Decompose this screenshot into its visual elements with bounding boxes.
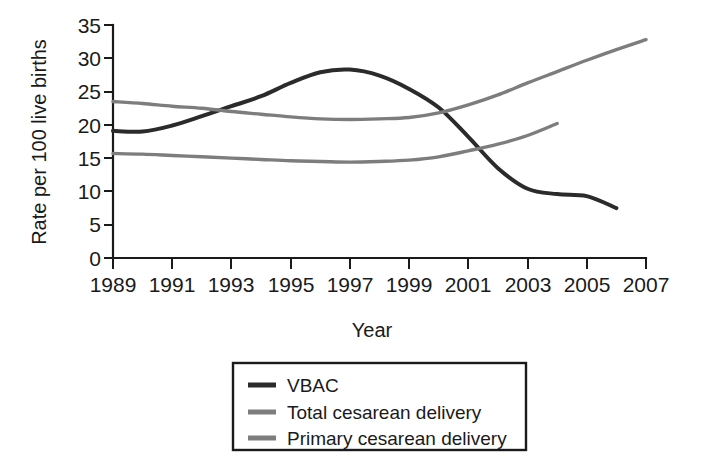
series-line-primary-cesarean-delivery [113, 124, 557, 163]
x-tick-label: 1991 [149, 273, 196, 296]
y-tick-label: 25 [78, 80, 101, 103]
x-axis-tick-labels: 1989 1991 1993 1995 1997 1999 2001 2003 … [90, 273, 670, 296]
y-tick-label: 10 [78, 180, 101, 203]
y-axis-tick-labels: 35 30 25 20 15 10 5 0 [78, 14, 101, 270]
y-tick-label: 0 [89, 247, 101, 270]
y-tick-label: 15 [78, 147, 101, 170]
x-tick-label: 2005 [564, 273, 611, 296]
y-tick-label: 35 [78, 14, 101, 37]
y-tick-label: 30 [78, 47, 101, 70]
x-tick-label: 2001 [445, 273, 492, 296]
legend-label-total-cesarean: Total cesarean delivery [287, 402, 482, 423]
legend-label-primary-cesarean: Primary cesarean delivery [287, 428, 507, 449]
y-tick-label: 20 [78, 114, 101, 137]
x-tick-label: 1993 [208, 273, 255, 296]
chart-svg: Rate per 100 live births 35 30 25 20 15 … [0, 0, 702, 454]
x-tick-label: 1989 [90, 273, 137, 296]
x-tick-label: 2003 [505, 273, 552, 296]
x-tick-label: 1999 [386, 273, 433, 296]
series-group [113, 40, 646, 208]
x-tick-label: 1995 [268, 273, 315, 296]
y-tick-label: 5 [89, 213, 101, 236]
series-line-vbac [113, 69, 616, 208]
x-axis-title: Year [352, 319, 393, 341]
legend-label-vbac: VBAC [287, 375, 339, 396]
legend: VBAC Total cesarean delivery Primary ces… [233, 363, 526, 450]
series-line-total-cesarean-delivery [113, 40, 646, 120]
x-tick-label: 1997 [327, 273, 374, 296]
x-tick-label: 2007 [623, 273, 670, 296]
y-axis [104, 25, 113, 258]
y-axis-title: Rate per 100 live births [28, 39, 50, 245]
chart-figure: Rate per 100 live births 35 30 25 20 15 … [0, 0, 702, 454]
x-axis [113, 258, 646, 269]
